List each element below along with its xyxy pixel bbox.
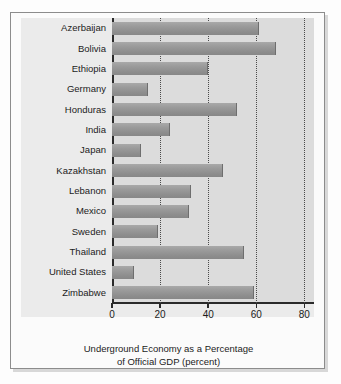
- gridline-20: [160, 18, 161, 303]
- category-label: India: [85, 120, 106, 140]
- category-label: Bolivia: [78, 39, 106, 59]
- figure-frame: AzerbaijanBoliviaEthiopiaGermanyHonduras…: [10, 12, 325, 369]
- category-label: Honduras: [65, 100, 106, 120]
- x-tick-label-40: 40: [203, 309, 214, 320]
- bar: [112, 246, 244, 259]
- x-axis-line: [112, 302, 314, 304]
- bar: [112, 103, 237, 116]
- y-axis-line: [112, 18, 114, 303]
- bar: [112, 144, 141, 157]
- x-tick-mark-80: [304, 303, 305, 308]
- x-tick-mark-60: [256, 303, 257, 308]
- caption-line-2: of Official GDP (percent): [27, 356, 310, 369]
- category-label: Mexico: [76, 201, 106, 221]
- category-axis-labels: AzerbaijanBoliviaEthiopiaGermanyHonduras…: [21, 18, 109, 303]
- bar: [112, 225, 158, 238]
- category-label: Germany: [67, 79, 106, 99]
- x-tick-label-0: 0: [109, 309, 115, 320]
- x-tick-label-20: 20: [155, 309, 166, 320]
- category-label: Azerbaijan: [61, 18, 106, 38]
- gridline-40: [208, 18, 209, 303]
- bar: [112, 62, 208, 75]
- category-label: Ethiopia: [72, 59, 106, 79]
- chart-caption: Underground Economy as a Percentage of O…: [27, 343, 310, 368]
- bar: [112, 266, 134, 279]
- category-label: Kazakhstan: [56, 161, 106, 181]
- x-tick-mark-20: [159, 303, 160, 308]
- category-label: United States: [49, 262, 106, 282]
- category-label: Japan: [80, 140, 106, 160]
- category-label: Lebanon: [69, 181, 106, 201]
- caption-line-1: Underground Economy as a Percentage: [27, 343, 310, 356]
- gridline-80: [304, 18, 305, 303]
- x-tick-label-60: 60: [251, 309, 262, 320]
- bar: [112, 164, 223, 177]
- bar: [112, 185, 191, 198]
- bar: [112, 205, 189, 218]
- x-tick-label-80: 80: [299, 309, 310, 320]
- bar: [112, 22, 259, 35]
- x-tick-mark-40: [207, 303, 208, 308]
- bar: [112, 286, 254, 299]
- category-label: Zimbabwe: [62, 283, 106, 303]
- chart-container: AzerbaijanBoliviaEthiopiaGermanyHonduras…: [21, 18, 314, 322]
- figure-page: AzerbaijanBoliviaEthiopiaGermanyHonduras…: [0, 0, 341, 384]
- gridline-60: [256, 18, 257, 303]
- x-tick-mark-0: [111, 303, 112, 308]
- category-label: Thailand: [70, 242, 106, 262]
- bar: [112, 42, 276, 55]
- plot-area: 020406080: [112, 18, 314, 303]
- bar: [112, 123, 170, 136]
- category-label: Sweden: [72, 222, 106, 242]
- bar: [112, 83, 148, 96]
